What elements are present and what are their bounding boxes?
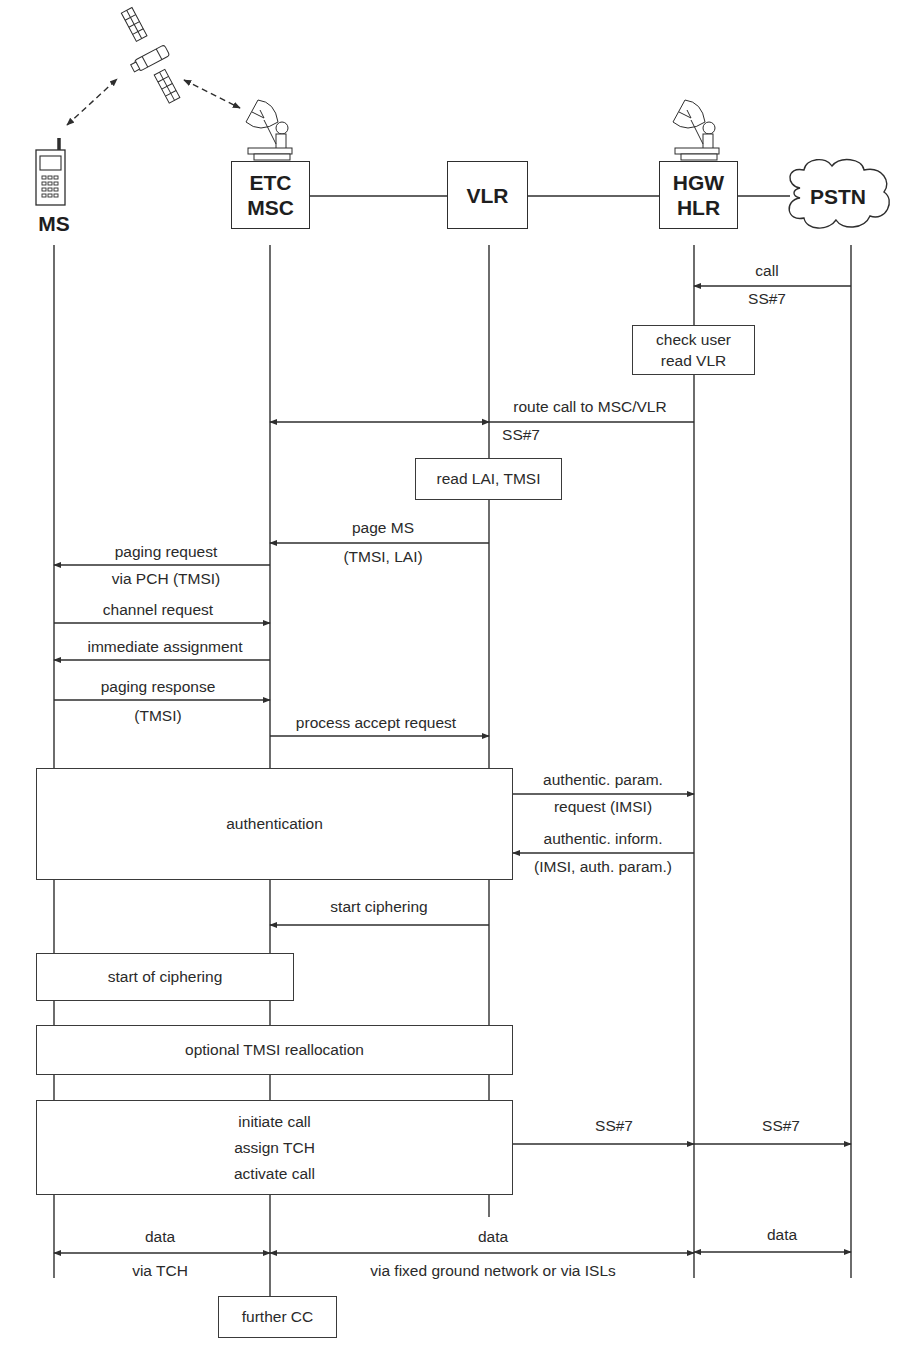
actor-hlr-label: HLR [677, 195, 720, 220]
satellite-link-ms [67, 79, 117, 125]
actor-vlr-label: VLR [467, 183, 509, 208]
process-check-user: check user read VLR [632, 325, 755, 375]
satellite-link-etc [184, 80, 240, 108]
msg-data-tch-label: data [145, 1228, 175, 1246]
actor-hgw-label: HGW [673, 170, 724, 195]
actor-hgw-hlr: HGW HLR [659, 161, 738, 229]
process-further-cc: further CC [218, 1296, 337, 1338]
msg-data-tch-sublabel: via TCH [132, 1262, 188, 1280]
satellite-dish-icon-hgw [673, 100, 719, 160]
msg-process-accept-label: process accept request [296, 714, 456, 732]
msg-auth-param-sublabel: request (IMSI) [554, 798, 652, 816]
msg-data-ground-label: data [478, 1228, 508, 1246]
msg-channel-request-label: channel request [103, 601, 213, 619]
process-start-of-ciphering: start of ciphering [36, 953, 294, 1001]
msg-paging-response-label: paging response [101, 678, 216, 696]
msg-auth-inform-label: authentic. inform. [544, 830, 663, 848]
actor-vlr: VLR [447, 161, 528, 229]
process-start-of-ciphering-line1: start of ciphering [108, 965, 223, 989]
process-tmsi-reallocation-line1: optional TMSI reallocation [185, 1038, 364, 1062]
process-initiate-call-line3: activate call [234, 1161, 315, 1187]
msg-ss7-hlr-label: SS#7 [595, 1117, 633, 1135]
msg-page-ms-label: page MS [352, 519, 414, 537]
msg-call-sublabel: SS#7 [748, 290, 786, 308]
msg-paging-request-label: paging request [115, 543, 218, 561]
msg-paging-response-sublabel: (TMSI) [134, 707, 181, 725]
process-check-user-line1: check user [656, 329, 731, 350]
msg-page-ms-sublabel: (TMSI, LAI) [343, 548, 422, 566]
msg-route-call-label: route call to MSC/VLR [513, 398, 666, 416]
msg-auth-param-label: authentic. param. [543, 771, 663, 789]
process-read-lai-tmsi: read LAI, TMSI [415, 458, 562, 500]
mobile-phone-icon [36, 138, 65, 205]
msg-data-ground-sublabel: via fixed ground network or via ISLs [370, 1262, 616, 1280]
satellite-icon [121, 8, 179, 104]
sequence-diagram: MS ETC MSC VLR HGW HLR PSTN call SS#7 ro… [0, 0, 910, 1358]
msg-start-ciphering-label: start ciphering [330, 898, 427, 916]
actor-ms-label: MS [24, 212, 84, 236]
process-tmsi-reallocation: optional TMSI reallocation [36, 1025, 513, 1075]
msg-immediate-assignment-label: immediate assignment [87, 638, 242, 656]
msg-call-label: call [755, 262, 778, 280]
process-initiate-call-line1: initiate call [238, 1109, 310, 1135]
process-initiate-call-line2: assign TCH [234, 1135, 315, 1161]
process-read-lai-line1: read LAI, TMSI [437, 467, 541, 491]
msg-auth-inform-sublabel: (IMSI, auth. param.) [534, 858, 672, 876]
process-initiate-call: initiate call assign TCH activate call [36, 1100, 513, 1195]
process-authentication: authentication [36, 768, 513, 880]
actor-pstn-label: PSTN [810, 185, 866, 209]
actor-etc-msc: ETC MSC [231, 161, 310, 229]
msg-paging-request-sublabel: via PCH (TMSI) [112, 570, 221, 588]
msg-route-call-sublabel: SS#7 [502, 426, 540, 444]
msg-ss7-pstn-label: SS#7 [762, 1117, 800, 1135]
process-check-user-line2: read VLR [661, 350, 726, 371]
satellite-dish-icon-etc [246, 100, 292, 160]
actor-msc-label: MSC [247, 195, 294, 220]
figure-caption-clipped [0, 1349, 910, 1358]
msg-data-pstn-label: data [767, 1226, 797, 1244]
actor-etc-label: ETC [250, 170, 292, 195]
process-further-cc-line1: further CC [242, 1305, 314, 1329]
process-authentication-line1: authentication [226, 812, 323, 836]
